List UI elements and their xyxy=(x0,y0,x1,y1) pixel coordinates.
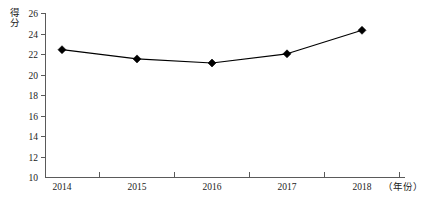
x-tick-label-2015: 2015 xyxy=(128,182,147,192)
y-tick-label-16: 16 xyxy=(29,112,39,122)
y-tick-label-18: 18 xyxy=(29,91,39,101)
y-tick-label-22: 22 xyxy=(29,50,39,60)
y-axis-tick-labels: 26 24 22 20 18 16 14 12 10 xyxy=(29,9,39,183)
y-tick-label-14: 14 xyxy=(29,132,39,142)
y-axis-title-char1: 得 xyxy=(10,7,20,18)
x-tick-label-2017: 2017 xyxy=(278,182,297,192)
x-tick-label-2016: 2016 xyxy=(203,182,222,192)
y-tick-label-20: 20 xyxy=(29,71,39,81)
y-axis-title: 得 分 xyxy=(10,7,20,28)
y-tick-label-24: 24 xyxy=(29,30,39,40)
line-chart: 26 24 22 20 18 16 14 12 10 得 分 2014 2015 xyxy=(0,0,429,210)
y-tick-label-26: 26 xyxy=(29,9,39,19)
x-axis-title: （年份） xyxy=(383,181,423,192)
x-tick-label-2018: 2018 xyxy=(353,182,372,192)
y-tick-label-12: 12 xyxy=(29,153,39,163)
y-axis-title-char2: 分 xyxy=(10,18,20,28)
chart-canvas: 26 24 22 20 18 16 14 12 10 得 分 2014 2015 xyxy=(0,0,429,210)
y-tick-label-10: 10 xyxy=(29,173,39,183)
x-tick-label-2014: 2014 xyxy=(53,182,72,192)
